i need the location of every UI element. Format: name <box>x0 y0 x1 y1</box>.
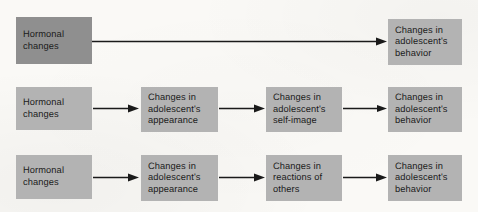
box-line: Changes in <box>395 161 455 173</box>
box-line: changes <box>23 177 85 189</box>
box-line: Changes in <box>148 92 211 104</box>
box-line: behavior <box>395 115 455 127</box>
box-line: changes <box>23 41 85 53</box>
box-line: appearance <box>148 184 211 196</box>
box-line: behavior <box>395 48 455 60</box>
arrow-connector <box>343 173 388 182</box>
box-line: adolescent's <box>273 104 335 116</box>
box-line: adolescent's <box>395 172 455 184</box>
box-line: adolescent's <box>148 172 211 184</box>
box-line: others <box>273 184 335 196</box>
box-line: Changes in <box>273 161 335 173</box>
box-line: Changes in <box>395 92 455 104</box>
box-line: Changes in <box>148 161 211 173</box>
arrow-connector <box>219 173 266 182</box>
box-changes-in-reactions-of-others[interactable]: Changes in reactions of others <box>266 155 342 201</box>
box-line: changes <box>23 109 85 121</box>
box-line: adolescent's <box>395 36 455 48</box>
box-hormonal-changes[interactable]: Hormonal changes <box>16 17 92 64</box>
box-line: reactions of <box>273 172 335 184</box>
box-line: Changes in <box>273 92 335 104</box>
box-line: behavior <box>395 184 455 196</box>
box-changes-in-adolescents-behavior[interactable]: Changes in adolescent's behavior <box>388 19 462 65</box>
arrow-connector <box>92 37 388 46</box>
box-line: self-image <box>273 115 335 127</box>
box-changes-in-adolescents-appearance[interactable]: Changes in adolescent's appearance <box>141 87 218 132</box>
diagram-canvas: Hormonal changes Changes in adolescent's… <box>0 0 478 212</box>
box-changes-in-adolescents-behavior[interactable]: Changes in adolescent's behavior <box>388 155 462 201</box>
arrow-connector <box>343 104 388 113</box>
box-line: appearance <box>148 115 211 127</box>
arrow-connector <box>93 173 140 182</box>
box-line: Hormonal <box>23 29 85 41</box>
box-changes-in-adolescents-behavior[interactable]: Changes in adolescent's behavior <box>388 87 462 132</box>
box-line: Hormonal <box>23 97 85 109</box>
box-line: Changes in <box>395 25 455 37</box>
box-line: adolescent's <box>395 104 455 116</box>
box-changes-in-adolescents-appearance[interactable]: Changes in adolescent's appearance <box>141 155 218 201</box>
box-line: adolescent's <box>148 104 211 116</box>
box-hormonal-changes[interactable]: Hormonal changes <box>16 87 92 130</box>
box-changes-in-adolescents-self-image[interactable]: Changes in adolescent's self-image <box>266 87 342 132</box>
arrow-connector <box>219 104 266 113</box>
arrow-connector <box>93 104 140 113</box>
box-hormonal-changes[interactable]: Hormonal changes <box>16 155 92 199</box>
box-line: Hormonal <box>23 165 85 177</box>
